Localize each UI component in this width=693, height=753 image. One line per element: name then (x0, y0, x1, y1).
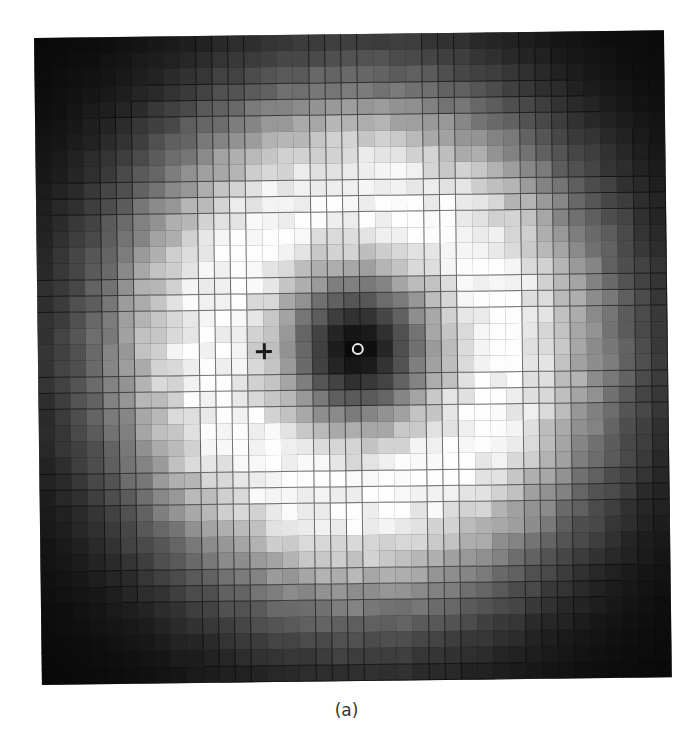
heatmap-cell (471, 113, 488, 130)
center-circle-marker (352, 343, 364, 355)
heatmap-cell (299, 552, 316, 569)
heatmap-cell (521, 210, 538, 227)
heatmap-cell (600, 128, 617, 145)
heatmap-cell (234, 520, 251, 537)
heatmap-cell (620, 451, 637, 468)
heatmap-cell (380, 567, 397, 584)
heatmap-cell (445, 647, 462, 664)
heatmap-cell (444, 518, 461, 535)
heatmap-cell (589, 500, 606, 517)
heatmap-cell (505, 275, 522, 292)
heatmap-cell (327, 244, 344, 261)
heatmap-cell (346, 471, 363, 488)
heatmap-cell (395, 519, 412, 536)
heatmap-cell (251, 650, 268, 667)
heatmap-cell (72, 539, 89, 556)
heatmap-cell (649, 111, 666, 128)
heatmap-cell (199, 311, 216, 328)
heatmap-cell (461, 615, 478, 632)
heatmap-cell (347, 568, 364, 585)
heatmap-cell (293, 51, 310, 68)
heatmap-cell (458, 405, 475, 422)
heatmap-cell (298, 455, 315, 472)
heatmap-cell (165, 214, 182, 231)
heatmap-cell (116, 101, 133, 118)
heatmap-cell (138, 619, 155, 636)
heatmap-cell (459, 453, 476, 470)
heatmap-cell (490, 307, 507, 324)
heatmap-cell (412, 534, 429, 551)
heatmap-cell (618, 257, 635, 274)
heatmap-cell (506, 339, 523, 356)
heatmap-cell (152, 441, 169, 458)
heatmap-cell (120, 506, 137, 523)
heatmap-cell (183, 311, 200, 328)
heatmap-cell (315, 568, 332, 585)
heatmap-cell (344, 325, 361, 342)
heatmap-cell (261, 132, 278, 149)
heatmap-cell (396, 599, 413, 616)
heatmap-cell (444, 550, 461, 567)
heatmap-cell (163, 36, 180, 53)
heatmap-cell (309, 34, 326, 51)
heatmap-cell (197, 149, 214, 166)
heatmap-cell (359, 228, 376, 245)
heatmap-cell (655, 596, 672, 613)
heatmap-cell (87, 409, 104, 426)
heatmap-cell (472, 226, 489, 243)
heatmap-cell (199, 327, 216, 344)
heatmap-cell (599, 47, 616, 64)
heatmap-cell (523, 388, 540, 405)
heatmap-cell (390, 98, 407, 115)
heatmap-cell (357, 50, 374, 67)
heatmap-cell (74, 652, 91, 669)
heatmap-cell (376, 309, 393, 326)
heatmap-cell (101, 215, 118, 232)
heatmap-cell (89, 603, 106, 620)
heatmap-cell (185, 537, 202, 554)
heatmap-cell (54, 361, 71, 378)
heatmap-cell (473, 259, 490, 276)
heatmap-cell (280, 310, 297, 327)
heatmap-cell (184, 424, 201, 441)
heatmap-cell (246, 181, 263, 198)
heatmap-cell (442, 421, 459, 438)
heatmap-cell (104, 474, 121, 491)
heatmap-cell (489, 242, 506, 259)
heatmap-cell (116, 134, 133, 151)
heatmap-cell (168, 440, 185, 457)
heatmap-cell (623, 661, 640, 678)
heatmap-cell (639, 661, 656, 678)
heatmap-cell (477, 598, 494, 615)
heatmap-cell (586, 257, 603, 274)
heatmap-cell (235, 601, 252, 618)
heatmap-cell (413, 664, 430, 681)
heatmap-cell (88, 522, 105, 539)
heatmap-cell (165, 166, 182, 183)
heatmap-cell (439, 146, 456, 163)
heatmap-cell (216, 408, 233, 425)
heatmap-cell (295, 261, 312, 278)
heatmap-cell (392, 276, 409, 293)
heatmap-cell (587, 322, 604, 339)
heatmap-cell (99, 86, 116, 103)
heatmap-cell (214, 246, 231, 263)
heatmap-cell (617, 176, 634, 193)
heatmap-cell (470, 49, 487, 66)
heatmap-cell (247, 278, 264, 295)
heatmap-cell (230, 197, 247, 214)
heatmap-cell (554, 274, 571, 291)
heatmap-cell (519, 113, 536, 130)
heatmap-cell (376, 292, 393, 309)
heatmap-cell (300, 665, 317, 682)
heatmap-cell (425, 292, 442, 309)
heatmap-cell (653, 467, 670, 484)
heatmap-cell (523, 420, 540, 437)
heatmap-cell (280, 358, 297, 375)
heatmap-cell (557, 533, 574, 550)
heatmap-cell (296, 293, 313, 310)
heatmap-cell (570, 322, 587, 339)
heatmap-cell (571, 355, 588, 372)
heatmap-cell (231, 262, 248, 279)
heatmap-cell (584, 112, 601, 129)
